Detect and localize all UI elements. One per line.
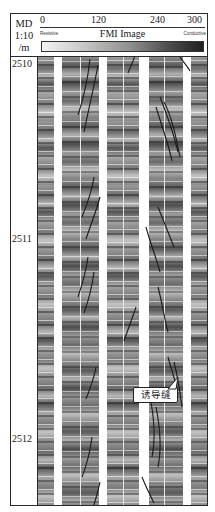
depth-header-scale: 1:10 xyxy=(11,30,37,42)
scale-tick-0: 0 xyxy=(40,14,45,25)
depth-column-header: MD 1:10 /m xyxy=(11,14,37,56)
depth-label-2511: 2511 xyxy=(12,233,32,244)
fracture-traces xyxy=(38,57,207,505)
fmi-log-panel: MD 1:10 /m 0 120 240 300 Resistive FMI I… xyxy=(10,13,208,506)
azimuth-scale: 0 120 240 300 xyxy=(40,15,205,28)
track-title: FMI Image xyxy=(38,28,207,39)
log-header: MD 1:10 /m 0 120 240 300 Resistive FMI I… xyxy=(11,14,207,57)
scale-tick-300: 300 xyxy=(187,14,202,25)
depth-label-2512: 2512 xyxy=(12,433,32,444)
scale-tick-120: 120 xyxy=(91,14,106,25)
depth-header-md: MD xyxy=(11,18,37,30)
callout-pointer xyxy=(168,375,182,391)
color-scale-bar xyxy=(41,41,204,52)
depth-header-unit: /m xyxy=(11,42,37,54)
conductive-label: Conductive xyxy=(183,31,206,36)
depth-label-2510: 2510 xyxy=(12,58,32,69)
image-track-header: 0 120 240 300 Resistive FMI Image Conduc… xyxy=(38,14,207,56)
fmi-image-track: 诱导缝 xyxy=(38,57,207,505)
depth-column: 2510 2511 2512 xyxy=(11,57,38,505)
annotation-text: 诱导缝 xyxy=(141,389,171,400)
scale-tick-240: 240 xyxy=(150,14,165,25)
